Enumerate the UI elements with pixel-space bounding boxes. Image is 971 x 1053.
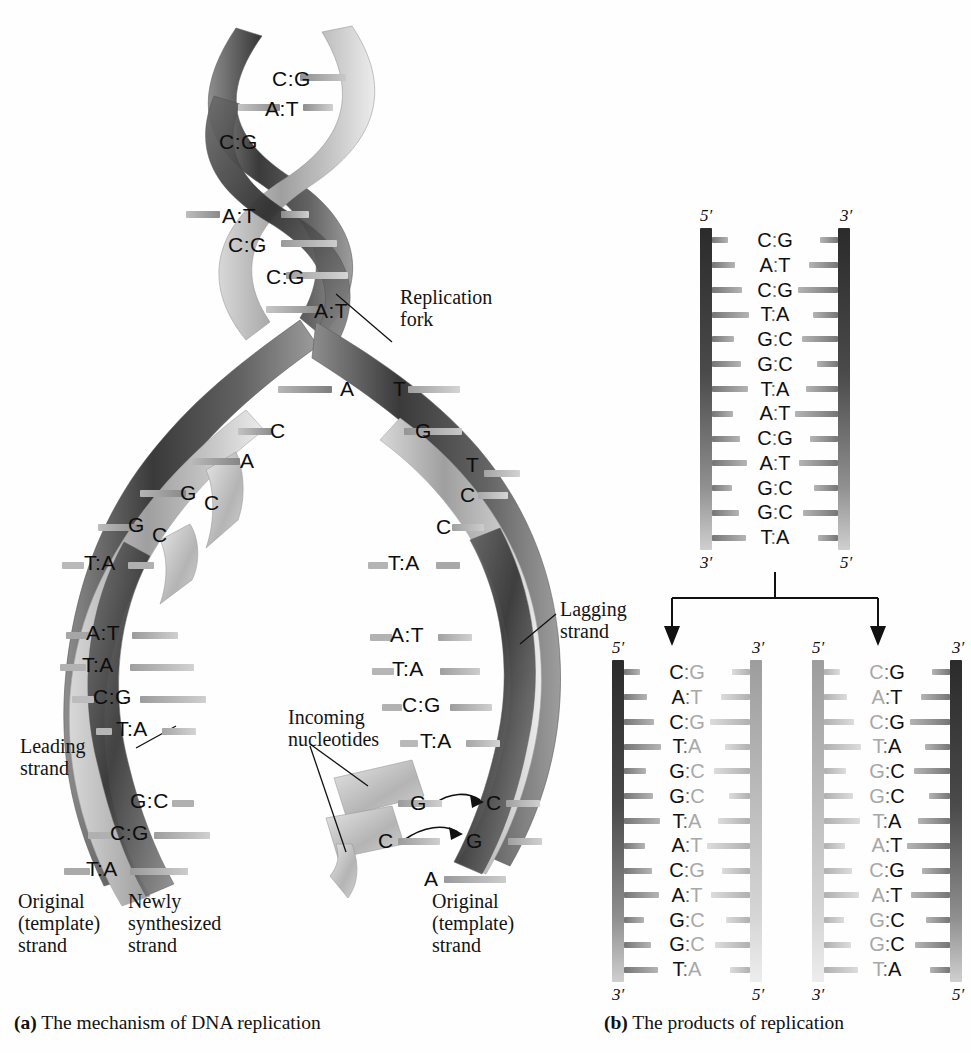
panel-a-caption-prefix: (a) — [14, 1012, 37, 1033]
arrow-head-left — [664, 626, 680, 646]
arrow-head-right — [870, 626, 886, 646]
panel-a-caption-text: The mechanism of DNA replication — [37, 1012, 321, 1033]
dna-replication-figure: C:G A:T C:G A:T C:G C:G A:T A C A G G C … — [0, 0, 971, 1053]
panel-b-caption-text: The products of replication — [628, 1012, 844, 1033]
panel-b-caption-prefix: (b) — [604, 1012, 628, 1033]
panel-b-caption: (b) The products of replication — [604, 1012, 844, 1034]
replication-branch-connector — [0, 0, 971, 1053]
panel-a-caption: (a) The mechanism of DNA replication — [14, 1012, 321, 1034]
